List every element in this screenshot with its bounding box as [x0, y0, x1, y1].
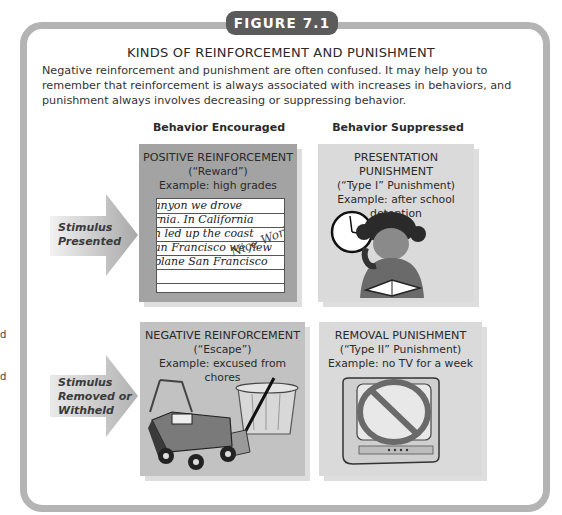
cell-alias: (“Escape”) [140, 343, 305, 357]
cell-alias: (“Type II” Punishment) [319, 343, 482, 357]
handwritten-paper-illustration: anyon we drove rnia. In California h led… [156, 198, 285, 293]
margin-fragment: d [0, 371, 6, 382]
tv-with-prohibition-sign-illustration [339, 376, 441, 466]
margin-fragment: d [0, 329, 6, 340]
lawnmower-trashcan-rake-illustration [146, 372, 302, 472]
cell-example: Example: no TV for a week [319, 357, 482, 371]
cell-heading: REMOVAL PUNISHMENT [319, 329, 482, 343]
cell-presentation-punishment: PRESENTATION PUNISHMENT (“Type I” Punish… [318, 144, 474, 302]
cell-example: Example: high grades [139, 179, 297, 193]
cell-negative-reinforcement: NEGATIVE REINFORCEMENT (“Escape”) Exampl… [140, 322, 305, 476]
cell-removal-punishment: REMOVAL PUNISHMENT (“Type II” Punishment… [319, 322, 482, 476]
column-header-encouraged: Behavior Encouraged [139, 121, 299, 134]
cell-alias: (“Reward”) [139, 165, 297, 179]
cell-alias: (“Type I” Punishment) [318, 179, 474, 193]
row-label-removed: Stimulus Removed or Withheld [58, 376, 132, 418]
figure-title: KINDS OF REINFORCEMENT AND PUNISHMENT [0, 45, 562, 60]
cell-heading: PRESENTATION PUNISHMENT [318, 151, 474, 179]
row-arrow-presented: Stimulus Presented [50, 194, 138, 276]
cell-heading: POSITIVE REINFORCEMENT [139, 151, 297, 165]
girl-studying-with-clock-illustration [328, 202, 458, 298]
cell-heading: NEGATIVE REINFORCEMENT [140, 329, 305, 343]
column-header-suppressed: Behavior Suppressed [318, 121, 478, 134]
figure-intro: Negative reinforcement and punishment ar… [42, 63, 532, 108]
figure-badge: FIGURE 7.1 [226, 11, 338, 35]
row-arrow-removed: Stimulus Removed or Withheld [50, 355, 138, 437]
cell-positive-reinforcement: POSITIVE REINFORCEMENT (“Reward”) Exampl… [139, 144, 297, 302]
row-label-presented: Stimulus Presented [58, 221, 121, 249]
